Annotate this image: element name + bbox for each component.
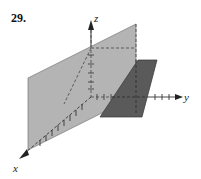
x-axis-label: x <box>12 162 18 174</box>
x-axis-arrow <box>19 149 29 159</box>
y-axis-arrow <box>175 94 183 100</box>
y-axis-label: y <box>183 91 189 103</box>
y-axis <box>148 94 176 100</box>
z-axis-label: z <box>93 12 99 24</box>
3d-plane-figure: z y x <box>0 0 201 179</box>
